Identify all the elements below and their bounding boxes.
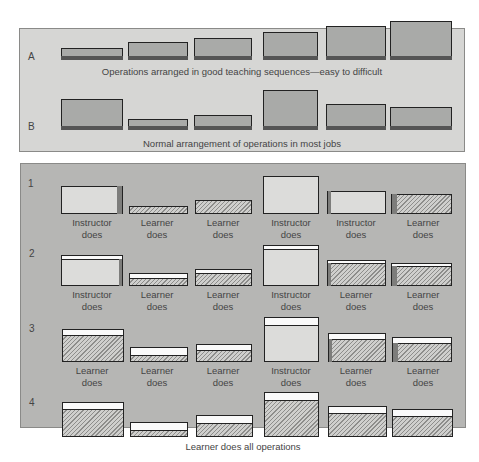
cell-label: Learnerdoes bbox=[388, 365, 458, 389]
cell-label: Learnerdoes bbox=[188, 217, 258, 241]
cell-label: Learnerdoes bbox=[188, 289, 258, 313]
operation-box bbox=[390, 107, 452, 130]
operation-box bbox=[263, 32, 318, 60]
operation-box-instructor bbox=[263, 176, 319, 214]
cell-label: Learnerdoes bbox=[388, 217, 458, 241]
row-label-2: 2 bbox=[29, 248, 35, 259]
operation-box-learner bbox=[130, 347, 188, 362]
operation-box bbox=[194, 38, 252, 60]
caption-b: Normal arrangement of operations in most… bbox=[19, 138, 465, 149]
cell-label: Learnerdoes bbox=[57, 365, 127, 389]
operation-box bbox=[326, 104, 386, 130]
cell-label: Learnerdoes bbox=[321, 289, 391, 313]
operation-box-learner bbox=[196, 344, 252, 362]
operation-box-learner bbox=[327, 260, 386, 286]
operation-box-instructor bbox=[263, 245, 319, 286]
operation-box bbox=[61, 99, 123, 130]
cell-label: Instructordoes bbox=[256, 217, 326, 241]
cell-label: Instructordoes bbox=[57, 289, 127, 313]
cell-label: Instructordoes bbox=[256, 289, 326, 313]
operation-box bbox=[194, 115, 252, 130]
cell-label: Instructordoes bbox=[57, 217, 127, 241]
cell-label: Learnerdoes bbox=[388, 289, 458, 313]
operation-box-instructor bbox=[61, 255, 123, 286]
row-label-1: 1 bbox=[28, 178, 34, 189]
cell-label: Learnerdoes bbox=[122, 365, 192, 389]
footer-caption: Learner does all operations bbox=[20, 441, 466, 452]
operation-box-learner bbox=[328, 406, 387, 437]
row-label-b: B bbox=[28, 121, 35, 132]
operation-box bbox=[326, 26, 386, 60]
cell-label: Learnerdoes bbox=[321, 365, 391, 389]
cell-label: Learnerdoes bbox=[188, 365, 258, 389]
row-label-a: A bbox=[28, 51, 35, 62]
operation-box bbox=[390, 21, 452, 60]
operation-box-instructor bbox=[264, 317, 319, 362]
operation-box-learner bbox=[391, 263, 452, 286]
operation-box-instructor bbox=[327, 191, 386, 214]
operation-box-learner bbox=[195, 200, 252, 214]
operation-box bbox=[263, 90, 318, 130]
operation-box-learner bbox=[129, 206, 188, 214]
operation-box-learner bbox=[392, 337, 452, 362]
operation-box bbox=[61, 48, 123, 60]
operation-box-learner bbox=[391, 194, 452, 214]
operation-box-learner bbox=[62, 402, 124, 437]
operation-box-learner bbox=[328, 333, 386, 362]
operation-box-learner bbox=[196, 415, 253, 437]
operation-box bbox=[128, 119, 188, 130]
operation-box-instructor bbox=[61, 186, 123, 214]
operation-box-learner bbox=[195, 269, 252, 286]
operation-box-learner bbox=[129, 273, 188, 286]
cell-label: Instructordoes bbox=[256, 365, 326, 389]
cell-label: Learnerdoes bbox=[122, 289, 192, 313]
operation-box bbox=[128, 42, 188, 60]
operation-box-learner bbox=[264, 392, 319, 437]
operation-box-learner bbox=[392, 409, 453, 437]
row-label-3: 3 bbox=[29, 323, 35, 334]
cell-label: Learnerdoes bbox=[122, 217, 192, 241]
cell-label: Instructordoes bbox=[321, 217, 391, 241]
caption-a: Operations arranged in good teaching seq… bbox=[19, 66, 465, 77]
row-label-4: 4 bbox=[29, 397, 35, 408]
operation-box-learner bbox=[130, 422, 188, 437]
operation-box-learner bbox=[62, 329, 124, 362]
